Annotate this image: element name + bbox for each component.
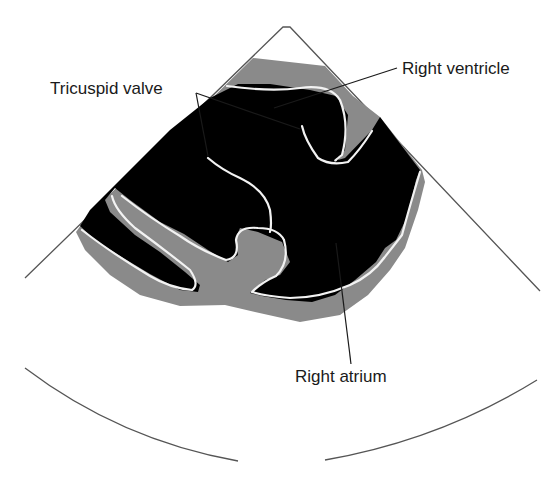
label-tricuspid-valve: Tricuspid valve [50, 80, 163, 97]
label-right-ventricle: Right ventricle [402, 60, 510, 77]
label-right-atrium: Right atrium [295, 368, 387, 385]
